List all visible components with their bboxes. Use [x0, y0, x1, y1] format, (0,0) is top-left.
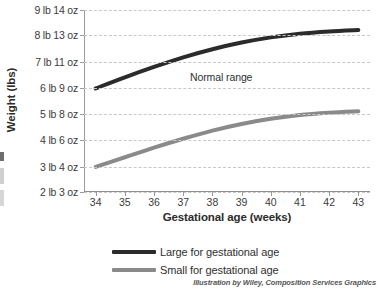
legend-item: Large for gestational age [112, 243, 362, 261]
y-axis-tick-mark [80, 140, 84, 141]
normal-range-annotation: Normal range [190, 71, 252, 83]
legend-item-label: Small for gestational age [160, 264, 279, 276]
x-axis-tick-label: 38 [207, 196, 219, 208]
x-axis-tick-label: 37 [177, 196, 189, 208]
y-axis-tick-label: 7 lb 11 oz [35, 56, 78, 68]
legend-color-swatch [112, 268, 156, 272]
x-axis-tick-label: 41 [294, 196, 306, 208]
y-axis-tick-label: 5 lb 8 oz [40, 108, 78, 120]
x-axis-tick-label: 36 [148, 196, 160, 208]
plot-area: Normal range [84, 10, 370, 192]
x-axis-tick-label: 43 [352, 196, 364, 208]
gridline [84, 88, 370, 89]
illustration-credit: Illustration by Wiley, Composition Servi… [193, 278, 376, 287]
chart-legend: Large for gestational ageSmall for gesta… [112, 243, 362, 279]
y-axis-tick-mark [80, 88, 84, 89]
x-axis-tick-labels: 34353637383940414243 [84, 196, 370, 210]
y-axis-tick-label: 2 lb 3 oz [40, 186, 78, 198]
series-line [96, 111, 359, 166]
gridline [84, 10, 370, 11]
x-axis-tick-label: 40 [265, 196, 277, 208]
legend-item: Small for gestational age [112, 261, 362, 279]
y-axis-title: Weight (lbs) [0, 0, 22, 200]
x-axis-title: Gestational age (weeks) [84, 211, 370, 223]
y-axis-tick-label: 9 lb 14 oz [34, 4, 78, 16]
chart-curves [84, 10, 370, 192]
x-axis-tick-label: 35 [119, 196, 131, 208]
gridline [84, 140, 370, 141]
x-axis-tick-label: 39 [236, 196, 248, 208]
y-axis-tick-mark [80, 10, 84, 11]
x-axis-tick-label: 34 [90, 196, 102, 208]
x-axis-tick-label: 42 [323, 196, 335, 208]
y-axis-tick-mark [80, 62, 84, 63]
gridline [84, 192, 370, 193]
y-axis-tick-mark [80, 114, 84, 115]
y-axis-tick-mark [80, 167, 84, 168]
y-axis-tick-mark [80, 35, 84, 36]
gridline [84, 62, 370, 63]
y-axis-tick-label: 3 lb 4 oz [40, 161, 78, 173]
y-axis-tick-label: 8 lb 13 oz [34, 29, 78, 41]
y-axis-tick-mark [80, 192, 84, 193]
gridline [84, 167, 370, 168]
y-axis-title-label: Weight (lbs) [5, 68, 17, 132]
legend-item-label: Large for gestational age [160, 246, 279, 258]
y-axis-tick-labels: 2 lb 3 oz3 lb 4 oz4 lb 6 oz5 lb 8 oz6 lb… [20, 0, 82, 200]
legend-color-swatch [112, 250, 156, 254]
gridline [84, 114, 370, 115]
gridline [84, 35, 370, 36]
y-axis-tick-label: 4 lb 6 oz [40, 134, 78, 146]
y-axis-tick-label: 6 lb 9 oz [40, 82, 78, 94]
